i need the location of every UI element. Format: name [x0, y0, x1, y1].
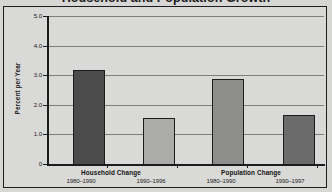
group-label-population-change: Population Change [187, 169, 315, 176]
chart-figure-frame: 5.0 4.0 3.0 2.0 1.0 0 Percent per Year H… [3, 6, 327, 188]
x-tick-1 [177, 165, 178, 168]
period-label-household-1990-1996: 1990–1996 [117, 178, 185, 184]
y-tick-label-1: 1.0 [14, 131, 42, 137]
y-tick-label-4: 4.0 [14, 43, 42, 49]
bar-household-1980-1990[interactable] [73, 70, 105, 165]
period-label-population-1990-1997: 1990–1997 [256, 178, 324, 184]
bar-population-1980-1990[interactable] [212, 79, 244, 165]
bars-layer [47, 16, 325, 165]
y-tick-label-5: 5.0 [14, 13, 42, 19]
x-tick-2 [247, 165, 248, 168]
bar-population-1990-1997[interactable] [283, 115, 315, 165]
x-tick-0 [107, 165, 108, 168]
x-tick-3 [317, 165, 318, 168]
y-axis-title: Percent per Year [14, 54, 21, 124]
chart-title: Household and Population Growth [0, 0, 332, 5]
period-label-population-1980-1990: 1980–1990 [187, 178, 255, 184]
group-label-household-change: Household Change [47, 169, 175, 176]
period-label-household-1980-1990: 1980–1990 [47, 178, 115, 184]
y-tick-label-0: 0 [14, 161, 42, 167]
bar-household-1990-1996[interactable] [143, 118, 175, 165]
